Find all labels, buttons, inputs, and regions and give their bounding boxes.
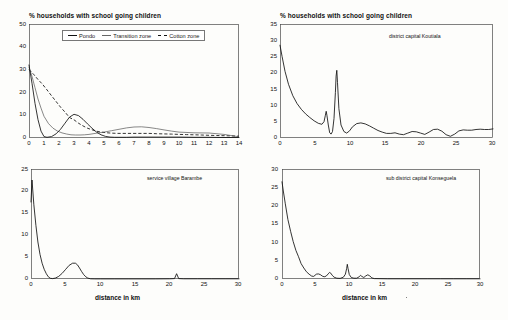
ytick-zones-10: 10 (8, 111, 26, 117)
ytick-koutiala-25: 25 (259, 53, 277, 59)
ytick-konseguela-25: 25 (260, 184, 278, 190)
curve-koutiala (280, 45, 493, 136)
ytick-koutiala-15: 15 (259, 86, 277, 92)
xtick-zones-1: 1 (39, 140, 49, 146)
xtick-konseguela-10: 10 (343, 281, 355, 287)
xtick-konseguela-20: 20 (409, 281, 421, 287)
xtick-zones-10: 10 (173, 140, 185, 146)
ytick-zones-50: 50 (8, 21, 26, 27)
ytick-zones-40: 40 (8, 43, 26, 49)
ytick-barambe-25: 25 (10, 166, 28, 172)
plot-area-barambe (31, 169, 239, 279)
ytick-konseguela-30: 30 (260, 166, 278, 172)
ytick-konseguela-0: 0 (260, 275, 278, 281)
chart-title-zones: % households with school going children (29, 12, 161, 19)
legend-zones: Pondo Transition zone Cotton zone (62, 30, 205, 41)
panel-konseguela: sub district capital Konseguela 30 25 20… (254, 160, 508, 320)
xtick-konseguela-25: 25 (442, 281, 454, 287)
figure-grid: % households with school going children … (0, 0, 508, 320)
stray-dot-mark (406, 297, 407, 298)
ytick-barambe-5: 5 (10, 253, 28, 259)
panel-zones: % households with school going children … (0, 0, 254, 160)
xtick-zones-9: 9 (159, 140, 169, 146)
ytick-zones-30: 30 (8, 66, 26, 72)
ytick-koutiala-5: 5 (259, 118, 277, 124)
curve-cotton-zone (29, 70, 239, 137)
xtick-barambe-0: 0 (26, 281, 36, 287)
curve-transition-zone (29, 67, 239, 137)
xtick-barambe-20: 20 (163, 281, 175, 287)
ytick-zones-20: 20 (8, 89, 26, 95)
chart-title-koutiala: % households with school going children (280, 12, 412, 19)
xtick-zones-7: 7 (129, 140, 139, 146)
xtick-zones-3: 3 (69, 140, 79, 146)
curve-pondo (29, 65, 239, 138)
xtick-barambe-5: 5 (60, 281, 70, 287)
xlabel-konseguela: distance in km (342, 294, 387, 301)
plot-svg-konseguela (282, 169, 480, 279)
xtick-konseguela-15: 15 (376, 281, 388, 287)
ytick-koutiala-35: 35 (259, 21, 277, 27)
xtick-koutiala-5: 5 (310, 140, 320, 146)
panel-barambe: service village Barambe 25 20 15 10 5 0 … (0, 160, 254, 320)
inner-label-koutiala: district capital Koutiala (389, 33, 441, 39)
legend-label-transition-zone: Transition zone (113, 33, 151, 39)
xtick-zones-2: 2 (54, 140, 64, 146)
ytick-koutiala-20: 20 (259, 69, 277, 75)
xlabel-barambe: distance in km (95, 294, 140, 301)
legend-swatch-dashed-icon (158, 35, 167, 36)
legend-item-transition-zone: Transition zone (102, 33, 151, 39)
xtick-koutiala-10: 10 (344, 140, 356, 146)
xtick-zones-11: 11 (188, 140, 200, 146)
plot-svg-barambe (31, 169, 239, 279)
curve-barambe (31, 180, 239, 279)
xtick-zones-6: 6 (114, 140, 124, 146)
xtick-barambe-15: 15 (129, 281, 141, 287)
ytick-barambe-15: 15 (10, 209, 28, 215)
ytick-barambe-20: 20 (10, 187, 28, 193)
plot-area-konseguela (282, 169, 480, 279)
xtick-konseguela-30: 30 (474, 281, 486, 287)
xtick-zones-8: 8 (144, 140, 154, 146)
xtick-koutiala-30: 30 (486, 140, 498, 146)
ytick-konseguela-20: 20 (260, 202, 278, 208)
xtick-konseguela-5: 5 (310, 281, 320, 287)
panel-koutiala: % households with school going children … (254, 0, 508, 160)
legend-item-pondo: Pondo (68, 33, 95, 39)
ytick-konseguela-5: 5 (260, 257, 278, 263)
plot-area-koutiala (280, 24, 493, 138)
xtick-koutiala-0: 0 (275, 140, 285, 146)
xtick-koutiala-15: 15 (379, 140, 391, 146)
xtick-zones-5: 5 (99, 140, 109, 146)
ytick-koutiala-30: 30 (259, 37, 277, 43)
xtick-zones-14: 14 (233, 140, 245, 146)
legend-swatch-solid-icon (68, 35, 77, 36)
curve-konseguela (282, 182, 480, 279)
plot-svg-zones (29, 24, 239, 138)
plot-svg-koutiala (280, 24, 493, 138)
xtick-koutiala-20: 20 (415, 140, 427, 146)
legend-item-cotton-zone: Cotton zone (158, 33, 199, 39)
xtick-zones-4: 4 (84, 140, 94, 146)
xtick-barambe-25: 25 (198, 281, 210, 287)
xtick-barambe-10: 10 (94, 281, 106, 287)
legend-label-cotton-zone: Cotton zone (169, 33, 199, 39)
xtick-konseguela-0: 0 (277, 281, 287, 287)
xtick-koutiala-25: 25 (450, 140, 462, 146)
ytick-konseguela-15: 15 (260, 220, 278, 226)
ytick-konseguela-10: 10 (260, 239, 278, 245)
legend-swatch-solid-grey-icon (102, 35, 111, 36)
xtick-zones-13: 13 (218, 140, 230, 146)
legend-label-pondo: Pondo (79, 33, 95, 39)
xtick-zones-12: 12 (203, 140, 215, 146)
ytick-koutiala-10: 10 (259, 102, 277, 108)
xtick-zones-0: 0 (24, 140, 34, 146)
inner-label-barambe: service village Barambe (147, 175, 202, 181)
plot-area-zones (29, 24, 239, 138)
ytick-barambe-10: 10 (10, 231, 28, 237)
xtick-barambe-30: 30 (232, 281, 244, 287)
inner-label-konseguela: sub district capital Konseguela (386, 175, 456, 181)
